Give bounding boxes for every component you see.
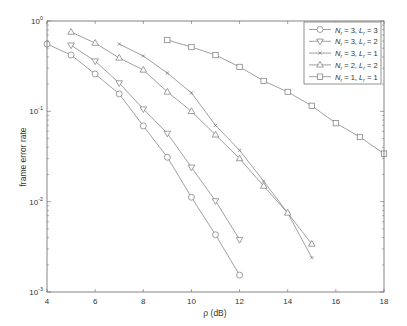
legend: Nr = 3, Lr = 3Nr = 3, Lr = 2Nr = 3, Lr =… <box>304 22 381 84</box>
square-marker <box>189 44 194 49</box>
triangle-down-marker <box>92 59 99 65</box>
triangle-down-marker <box>236 237 243 243</box>
square-marker <box>165 37 170 42</box>
square-marker <box>309 103 314 108</box>
y-tick-label: 10-1 <box>29 105 43 116</box>
legend-label: Nr = 3, Lr = 2 <box>335 37 378 47</box>
series-circle <box>44 41 243 278</box>
circle-marker <box>140 123 146 129</box>
circle-marker <box>237 272 243 278</box>
series-triangle-up <box>68 29 315 247</box>
circle-marker <box>92 71 98 77</box>
square-marker <box>213 52 218 57</box>
x-tick-label: 12 <box>235 297 244 306</box>
cross-marker <box>214 124 217 127</box>
chart-figure: 468101214161810010-110-210-3 ρ (dB) fram… <box>0 0 407 326</box>
x-tick-label: 18 <box>380 297 389 306</box>
x-axis-label: ρ (dB) <box>203 308 226 318</box>
cross-marker <box>190 91 193 94</box>
square-marker <box>261 78 266 83</box>
circle-marker <box>213 232 219 238</box>
circle-marker <box>164 154 170 160</box>
legend-label: Nr = 2, Lr = 2 <box>335 61 378 71</box>
series-line <box>71 32 312 244</box>
x-tick-label: 6 <box>93 297 98 306</box>
cross-marker <box>142 54 145 57</box>
triangle-up-marker <box>164 88 171 94</box>
square-marker <box>285 89 290 94</box>
square-marker <box>357 134 362 139</box>
triangle-up-marker <box>140 66 147 72</box>
square-icon <box>317 74 322 79</box>
legend-label: Nr = 3, Lr = 3 <box>335 26 378 36</box>
triangle-up-marker <box>68 29 75 35</box>
chart-canvas: 468101214161810010-110-210-3 ρ (dB) fram… <box>0 0 407 326</box>
cross-marker <box>166 72 169 75</box>
cross-marker <box>118 42 121 45</box>
triangle-up-marker <box>188 108 195 114</box>
series-cross <box>118 42 314 259</box>
x-tick-label: 4 <box>45 297 50 306</box>
circle-marker <box>116 91 122 97</box>
legend-label: Nr = 1, Lr = 1 <box>335 73 378 83</box>
y-tick-label: 100 <box>31 15 43 26</box>
y-axis-label: frame error rate <box>18 127 28 186</box>
x-tick-label: 10 <box>187 297 196 306</box>
legend-label: Nr = 3, Lr = 1 <box>335 49 378 59</box>
circle-icon <box>317 27 323 33</box>
square-marker <box>333 120 338 125</box>
y-tick-label: 10-3 <box>29 286 43 297</box>
x-tick-label: 14 <box>283 297 292 306</box>
triangle-down-marker <box>68 43 75 49</box>
series-line <box>119 44 312 258</box>
cross-marker <box>238 149 241 152</box>
triangle-up-marker <box>116 54 123 60</box>
cross-marker <box>310 256 313 259</box>
square-marker <box>237 64 242 69</box>
y-tick-label: 10-2 <box>29 196 43 207</box>
circle-marker <box>68 52 74 58</box>
series-line <box>47 44 240 275</box>
x-tick-label: 8 <box>141 297 146 306</box>
x-tick-label: 16 <box>331 297 340 306</box>
triangle-down-marker <box>212 199 219 205</box>
circle-marker <box>188 194 194 200</box>
